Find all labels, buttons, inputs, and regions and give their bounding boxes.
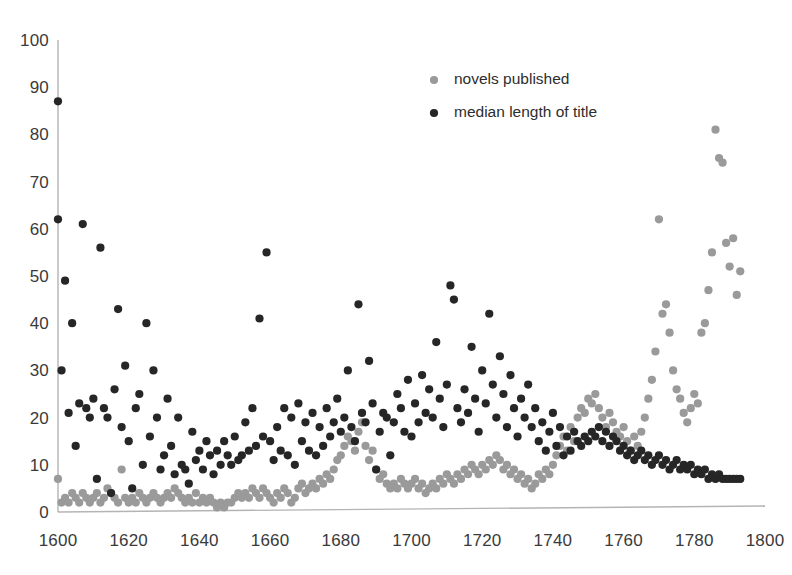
- data-point: [559, 451, 567, 459]
- data-point: [450, 296, 458, 304]
- data-point: [160, 451, 168, 459]
- data-point: [397, 404, 405, 412]
- data-point: [400, 428, 408, 436]
- data-point: [531, 480, 539, 488]
- data-point: [245, 447, 253, 455]
- data-point: [319, 442, 327, 450]
- data-point: [270, 498, 278, 506]
- series-median-length-of-title: [54, 97, 744, 497]
- data-point: [464, 470, 472, 478]
- data-point: [209, 470, 217, 478]
- data-point: [407, 432, 415, 440]
- data-point: [217, 461, 225, 469]
- data-point: [588, 399, 596, 407]
- data-point: [482, 465, 490, 473]
- data-point: [192, 489, 200, 497]
- data-point: [323, 404, 331, 412]
- data-point: [687, 461, 695, 469]
- data-point: [425, 385, 433, 393]
- data-point: [733, 291, 741, 299]
- data-point: [330, 465, 338, 473]
- data-point: [694, 399, 702, 407]
- data-point: [206, 451, 214, 459]
- data-point: [467, 343, 475, 351]
- data-point: [227, 461, 235, 469]
- data-point: [404, 376, 412, 384]
- data-point: [475, 470, 483, 478]
- data-point: [637, 428, 645, 436]
- data-point: [199, 465, 207, 473]
- data-point: [570, 428, 578, 436]
- data-point: [255, 494, 263, 502]
- data-point: [432, 338, 440, 346]
- data-point: [266, 437, 274, 445]
- data-point: [736, 267, 744, 275]
- data-point: [114, 305, 122, 313]
- data-point: [185, 480, 193, 488]
- data-point: [605, 442, 613, 450]
- data-point: [577, 442, 585, 450]
- data-point: [149, 366, 157, 374]
- data-point: [429, 414, 437, 422]
- data-point: [361, 442, 369, 450]
- data-point: [641, 414, 649, 422]
- data-point: [535, 437, 543, 445]
- data-point: [188, 428, 196, 436]
- data-point: [354, 428, 362, 436]
- data-point: [729, 234, 737, 242]
- data-point: [602, 428, 610, 436]
- data-point: [595, 404, 603, 412]
- data-point: [457, 418, 465, 426]
- data-point: [139, 461, 147, 469]
- data-point: [156, 465, 164, 473]
- data-point: [100, 404, 108, 412]
- y-tick-label: 10: [30, 456, 49, 475]
- x-tick-label: 1640: [180, 531, 219, 550]
- data-point: [82, 404, 90, 412]
- data-point: [301, 418, 309, 426]
- data-point: [542, 447, 550, 455]
- data-point: [65, 409, 73, 417]
- data-point: [171, 470, 179, 478]
- data-point: [676, 395, 684, 403]
- data-point: [485, 310, 493, 318]
- x-tick-label: 1780: [675, 531, 714, 550]
- data-point: [552, 451, 560, 459]
- data-point: [365, 357, 373, 365]
- data-point: [213, 447, 221, 455]
- data-point: [344, 366, 352, 374]
- data-point: [436, 395, 444, 403]
- data-point: [418, 480, 426, 488]
- data-point: [531, 404, 539, 412]
- data-point: [683, 418, 691, 426]
- data-point: [499, 390, 507, 398]
- data-point: [231, 432, 239, 440]
- data-point: [612, 437, 620, 445]
- legend-marker: [430, 109, 438, 117]
- data-point: [506, 371, 514, 379]
- data-point: [305, 447, 313, 455]
- data-point: [673, 456, 681, 464]
- data-point: [298, 437, 306, 445]
- data-point: [337, 428, 345, 436]
- data-point: [238, 451, 246, 459]
- data-point: [93, 489, 101, 497]
- data-point: [605, 409, 613, 417]
- y-tick-label: 80: [30, 125, 49, 144]
- data-point: [54, 97, 62, 105]
- chart-legend: novels publishedmedian length of title: [430, 70, 597, 120]
- data-point: [574, 414, 582, 422]
- data-point: [528, 423, 536, 431]
- data-point: [418, 371, 426, 379]
- data-point: [471, 395, 479, 403]
- data-point: [446, 281, 454, 289]
- data-point: [75, 399, 83, 407]
- data-point: [167, 442, 175, 450]
- data-point: [595, 423, 603, 431]
- data-point: [270, 456, 278, 464]
- y-tick-label: 100: [20, 31, 49, 50]
- data-point: [411, 399, 419, 407]
- data-point: [347, 423, 355, 431]
- data-point: [545, 470, 553, 478]
- data-point: [72, 442, 80, 450]
